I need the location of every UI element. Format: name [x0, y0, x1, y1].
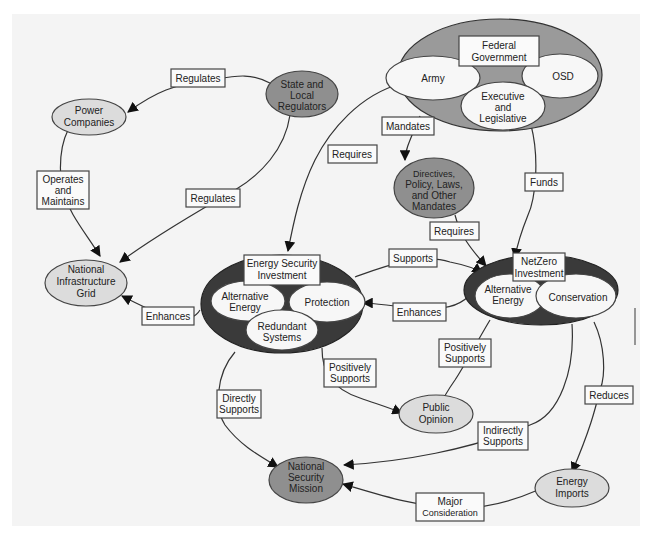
esi-title-2: Investment — [258, 270, 307, 281]
label-regulates-top[interactable]: Regulates — [171, 69, 225, 87]
svg-text:Directly: Directly — [222, 393, 255, 404]
grid-label-2: Infrastructure — [57, 276, 116, 287]
nsm-label-1: National — [288, 461, 325, 472]
federal-title-2: Government — [471, 52, 526, 63]
node-national-security-mission[interactable]: National Security Mission — [269, 457, 343, 503]
svg-text:Requires: Requires — [332, 149, 372, 160]
label-supports[interactable]: Supports — [389, 249, 437, 267]
svg-text:Supports: Supports — [483, 436, 523, 447]
esi-redundant-1: Redundant — [258, 321, 307, 332]
svg-text:Reduces: Reduces — [589, 390, 628, 401]
exec-label-1: Executive — [481, 91, 525, 102]
label-enhances-left[interactable]: Enhances — [142, 307, 194, 325]
svg-text:Supports: Supports — [445, 353, 485, 364]
node-federal-government[interactable]: Federal Government Army OSD Executive an… — [386, 19, 602, 131]
svg-text:Supports: Supports — [393, 253, 433, 264]
netzero-alt-energy-1: Alternative — [484, 284, 532, 295]
node-energy-imports[interactable]: Energy Imports — [535, 469, 609, 507]
grid-label-1: National — [68, 264, 105, 275]
svg-text:Major: Major — [437, 496, 463, 507]
directives-label-2: Policy, Laws, — [405, 179, 463, 190]
nsm-label-2: Security — [288, 472, 324, 483]
svg-text:Indirectly: Indirectly — [483, 425, 523, 436]
esi-title-1: Energy Security — [247, 258, 318, 269]
svg-text:Regulates: Regulates — [175, 73, 220, 84]
nsm-label-3: Mission — [289, 483, 323, 494]
exec-label-2: and — [495, 102, 512, 113]
label-positively-supports-right[interactable]: Positively Supports — [439, 339, 491, 367]
label-funds[interactable]: Funds — [525, 173, 563, 191]
esi-alt-energy-1: Alternative — [221, 291, 269, 302]
state-label-2: Local — [290, 90, 314, 101]
label-requires-mid[interactable]: Requires — [430, 222, 479, 240]
svg-text:Positively: Positively — [329, 362, 371, 373]
concept-map: Federal Government Army OSD Executive an… — [0, 0, 650, 541]
esi-alt-energy-2: Energy — [229, 302, 261, 313]
svg-text:Funds: Funds — [530, 177, 558, 188]
svg-text:Consideration: Consideration — [422, 508, 478, 518]
directives-label-1: Directives, — [413, 169, 455, 179]
esi-redundant-2: Systems — [263, 332, 301, 343]
directives-label-3: and Other — [412, 190, 457, 201]
public-label-1: Public — [422, 402, 449, 413]
label-indirectly-supports[interactable]: Indirectly Supports — [478, 422, 528, 450]
svg-text:Positively: Positively — [444, 342, 486, 353]
grid-label-3: Grid — [77, 288, 96, 299]
svg-text:Maintains: Maintains — [42, 196, 85, 207]
label-enhances-right[interactable]: Enhances — [393, 303, 446, 321]
node-power-companies[interactable]: Power Companies — [52, 99, 126, 135]
svg-text:Regulates: Regulates — [190, 193, 235, 204]
federal-title-1: Federal — [482, 40, 516, 51]
svg-text:Mandates: Mandates — [386, 121, 430, 132]
svg-text:Enhances: Enhances — [397, 307, 441, 318]
state-label-3: Regulators — [278, 101, 326, 112]
label-operates-maintains[interactable]: Operates and Maintains — [37, 171, 89, 209]
node-state-local-regulators[interactable]: State and Local Regulators — [266, 71, 338, 117]
node-energy-security-investment[interactable]: Energy Security Investment Alternative E… — [201, 255, 365, 353]
node-netzero-investment[interactable]: NetZero Investment Alternative Energy Co… — [464, 253, 618, 325]
node-directives[interactable]: Directives, Policy, Laws, and Other Mand… — [394, 158, 474, 218]
svg-text:and: and — [55, 185, 72, 196]
imports-label-2: Imports — [555, 488, 588, 499]
netzero-conservation: Conservation — [549, 292, 608, 303]
netzero-alt-energy-2: Energy — [492, 295, 524, 306]
svg-text:Operates: Operates — [42, 174, 83, 185]
imports-label-1: Energy — [556, 476, 588, 487]
osd-label: OSD — [552, 71, 574, 82]
label-reduces[interactable]: Reduces — [585, 386, 633, 404]
svg-text:Supports: Supports — [219, 404, 259, 415]
army-label: Army — [421, 73, 444, 84]
label-directly-supports[interactable]: Directly Supports — [217, 390, 261, 418]
netzero-title-1: NetZero — [521, 256, 558, 267]
label-mandates[interactable]: Mandates — [382, 117, 434, 135]
svg-text:Requires: Requires — [434, 226, 474, 237]
esi-protection: Protection — [304, 297, 349, 308]
svg-text:Enhances: Enhances — [146, 311, 190, 322]
directives-label-4: Mandates — [412, 201, 456, 212]
power-label-2: Companies — [64, 117, 115, 128]
exec-label-3: Legislative — [479, 113, 527, 124]
netzero-title-2: Investment — [515, 268, 564, 279]
label-regulates-mid[interactable]: Regulates — [186, 189, 240, 207]
label-positively-supports-left[interactable]: Positively Supports — [324, 359, 376, 387]
public-label-2: Opinion — [419, 414, 453, 425]
label-requires-left[interactable]: Requires — [328, 145, 377, 163]
power-label-1: Power — [75, 105, 104, 116]
label-major-consideration[interactable]: Major Consideration — [416, 493, 484, 521]
svg-text:Supports: Supports — [330, 373, 370, 384]
state-label-1: State and — [281, 79, 324, 90]
node-public-opinion[interactable]: Public Opinion — [399, 395, 473, 433]
node-national-infrastructure-grid[interactable]: National Infrastructure Grid — [45, 260, 127, 306]
